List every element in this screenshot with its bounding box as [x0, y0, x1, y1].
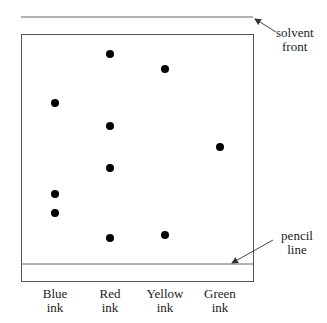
ink-spot: [106, 50, 114, 58]
lane-label-red-ink: Red ink: [85, 287, 135, 315]
ink-spot: [216, 143, 224, 151]
pencil-line-arrow-icon: [232, 240, 273, 263]
pencil-line-label-line2: line: [272, 243, 322, 257]
lane-label-blue-ink: Blue ink: [30, 287, 80, 315]
ink-spot: [51, 99, 59, 107]
ink-spot: [106, 164, 114, 172]
ink-spot: [106, 122, 114, 130]
lane-label-line1: Yellow: [140, 287, 190, 301]
ink-spot: [161, 65, 169, 73]
chromatography-paper: [22, 35, 254, 282]
lane-label-line1: Green: [195, 287, 245, 301]
lane-label-line1: Blue: [30, 287, 80, 301]
lane-label-line2: ink: [85, 301, 135, 315]
ink-spot: [161, 231, 169, 239]
lane-label-line2: ink: [140, 301, 190, 315]
ink-spot: [51, 190, 59, 198]
ink-spot: [106, 234, 114, 242]
solvent-front-arrow-icon: [255, 19, 276, 32]
lane-label-line2: ink: [195, 301, 245, 315]
solvent-front-label-line2: front: [276, 40, 326, 54]
lane-label-line1: Red: [85, 287, 135, 301]
ink-spots: [51, 50, 224, 242]
lane-label-yellow-ink: Yellow ink: [140, 287, 190, 315]
solvent-front-label: solvent front: [276, 26, 326, 54]
solvent-front-label-line1: solvent: [276, 26, 326, 40]
lane-label-green-ink: Green ink: [195, 287, 245, 315]
pencil-line-label: pencil line: [272, 229, 322, 257]
lane-label-line2: ink: [30, 301, 80, 315]
pencil-line-label-line1: pencil: [272, 229, 322, 243]
ink-spot: [51, 209, 59, 217]
